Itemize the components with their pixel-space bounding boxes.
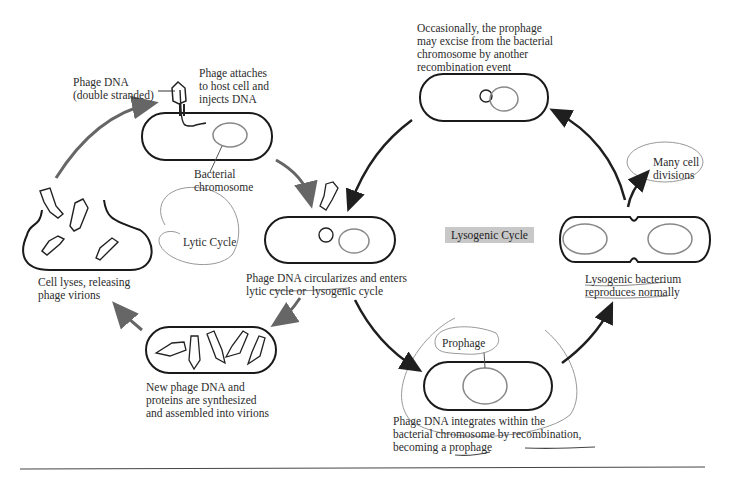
label-integrates: Phage DNA integrates within the bacteria…: [393, 415, 581, 454]
label-cell-lyses: Cell lyses, releasing phage virions: [38, 276, 130, 302]
label-prophage: Prophage: [442, 337, 485, 350]
lysing-cell: [23, 188, 151, 270]
arrow-divide-to-excise: [556, 112, 625, 200]
synthesis-cell: [146, 327, 276, 373]
label-bacterial-chromosome: Bacterial chromosome: [194, 168, 253, 194]
arrow-circularize-to-integrate: [355, 300, 416, 368]
label-phage-attaches: Phage attaches to host cell and injects …: [199, 67, 269, 106]
label-circularizes: Phage DNA circularizes and enters lytic …: [246, 272, 407, 298]
arrow-synthesis-to-lyse: [118, 308, 142, 330]
excision-cell: [420, 74, 548, 121]
dividing-cell: [560, 217, 710, 262]
lysogenic-cycle-box: Lysogenic Cycle: [445, 227, 534, 243]
arrow-integrate-to-divide: [562, 308, 610, 363]
label-many-divisions: Many cell divisions: [653, 156, 699, 182]
arrow-divide-to-many: [628, 175, 645, 207]
label-lytic-cycle: Lytic Cycle: [183, 236, 236, 249]
arrow-excise-to-circularize: [350, 120, 412, 205]
lytic-cycle-loop: [159, 187, 239, 264]
label-occasionally: Occasionally, the prophage may excise fr…: [417, 22, 553, 74]
arrow-release-to-attach: [56, 104, 150, 178]
label-phage-dna: Phage DNA (double stranded): [73, 76, 154, 102]
label-lysogenic-bacterium: Lysogenic bacterium reproduces normally: [585, 273, 681, 299]
label-new-phage: New phage DNA and proteins are synthesiz…: [146, 381, 269, 420]
bottom-rule: [20, 467, 705, 469]
circularizing-cell: [265, 182, 395, 263]
phage-life-cycle-diagram: [0, 0, 732, 484]
arrow-attach-to-circularize: [276, 160, 310, 200]
arrow-circularize-to-synthesis: [278, 298, 300, 322]
